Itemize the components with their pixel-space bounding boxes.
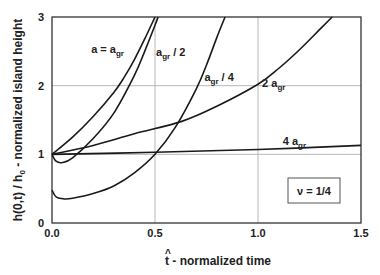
x-tick-label: 0.5 [147, 227, 162, 239]
x-tick-label: 1.5 [353, 227, 368, 239]
y-tick-label: 3 [38, 11, 44, 23]
legend-box: ν = 1/4 [288, 178, 340, 203]
curve-label: 2 agr [262, 77, 285, 92]
svg-text:t - normalized time: t - normalized time [165, 254, 271, 268]
curve-label: agr / 2 [156, 46, 185, 61]
chart: 0.00.51.01.5 0123 a = agragr / 2agr / 42… [0, 0, 380, 275]
curve-label: agr / 4 [204, 71, 234, 86]
y-axis-title-rest: - normalized island height [11, 19, 25, 170]
x-axis-ticks: 0.00.51.01.5 [44, 227, 368, 239]
hat-glyph: ^ [165, 248, 171, 259]
y-axis-title: h(0,t) / h0 - normalized island height [11, 19, 27, 221]
x-axis-title: t - normalized time ^ [165, 248, 271, 268]
x-axis-title-rest: - normalized time [169, 254, 271, 268]
y-axis-title-main: h(0,t) / h [11, 175, 25, 222]
svg-text:h(0,t) / h0 - normalized islan: h(0,t) / h0 - normalized island height [11, 19, 27, 221]
x-tick-label: 0.0 [44, 227, 59, 239]
curve-a-gr-4 [52, 17, 225, 199]
curve-4-a-gr [52, 145, 361, 154]
y-tick-label: 0 [38, 217, 44, 229]
curve-label: a = agr [91, 43, 124, 58]
poisson-ratio-annotation: ν = 1/4 [297, 185, 332, 197]
y-tick-label: 2 [38, 80, 44, 92]
y-tick-label: 1 [38, 148, 44, 160]
y-axis-ticks: 0123 [38, 11, 44, 229]
x-tick-label: 1.0 [250, 227, 265, 239]
